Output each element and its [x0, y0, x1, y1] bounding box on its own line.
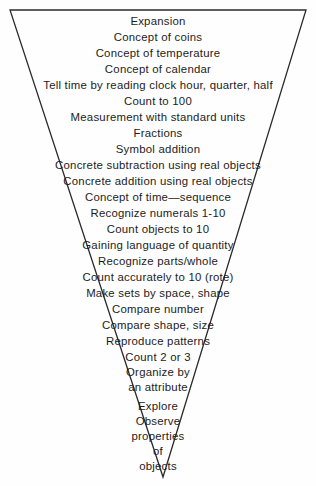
skill-level-item: Count objects to 10: [107, 221, 209, 237]
skill-level-item: Count 2 or 3: [125, 349, 190, 365]
skill-level-item: Concrete addition using real objects: [63, 173, 252, 189]
skill-level-list: ExpansionConcept of coinsConcept of temp…: [0, 0, 316, 486]
skill-level-item: Measurement with standard units: [71, 109, 246, 125]
skill-level-item: Count to 100: [124, 93, 192, 109]
skill-level-item: Recognize numerals 1-10: [90, 205, 225, 221]
diagram-canvas: ExpansionConcept of coinsConcept of temp…: [0, 0, 316, 486]
skill-level-item: Concept of calendar: [105, 61, 211, 77]
skill-level-item: Make sets by space, shape: [86, 285, 230, 301]
skill-level-item: Recognize parts/whole: [98, 253, 218, 269]
skill-level-item: Reproduce patterns: [106, 333, 210, 349]
skill-level-item: Tell time by reading clock hour, quarter…: [43, 77, 273, 93]
skill-level-item: Expansion: [130, 13, 185, 29]
skill-level-item: an attribute: [128, 380, 188, 395]
skill-level-item: objects: [139, 459, 177, 474]
skill-level-item: Compare shape, size: [102, 317, 214, 333]
skill-level-item: Symbol addition: [116, 141, 200, 157]
skill-level-item: Count accurately to 10 (rote): [83, 269, 234, 285]
skill-level-item: Concrete subtraction using real objects: [55, 157, 261, 173]
skill-level-item: Compare number: [112, 301, 204, 317]
skill-level-item: properties: [132, 429, 185, 444]
skill-level-item: Organize by: [126, 365, 190, 380]
skill-level-item: of: [153, 444, 163, 459]
skill-level-item: Concept of temperature: [96, 45, 221, 61]
skill-level-item: Concept of time—sequence: [85, 189, 231, 205]
skill-level-item: Explore: [138, 399, 178, 414]
skill-level-item: Gaining language of quantity: [82, 237, 233, 253]
skill-level-item: Concept of coins: [114, 29, 203, 45]
skill-level-item: Fractions: [134, 125, 183, 141]
skill-level-item: Observe: [136, 414, 181, 429]
